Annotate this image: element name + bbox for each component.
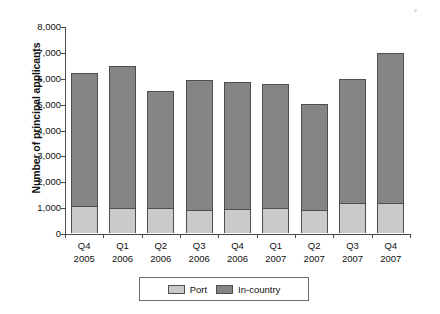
bar-segment-in-country bbox=[339, 79, 366, 203]
x-axis-label: Q22006 bbox=[142, 240, 180, 265]
bar-segment-port bbox=[71, 206, 98, 233]
x-axis-label: Q42007 bbox=[372, 240, 410, 265]
legend-swatch bbox=[216, 285, 233, 294]
y-axis-tick bbox=[61, 182, 65, 183]
x-axis-label-year: 2005 bbox=[65, 253, 103, 266]
x-axis-label-quarter: Q2 bbox=[295, 240, 333, 253]
x-axis-label-year: 2006 bbox=[218, 253, 256, 266]
y-axis-tick-label: 7,000 bbox=[1, 48, 61, 57]
stacked-bar bbox=[147, 91, 174, 233]
x-axis-label: Q42005 bbox=[65, 240, 103, 265]
x-axis-label-year: 2007 bbox=[295, 253, 333, 266]
stacked-bar bbox=[301, 104, 328, 233]
x-axis-label-quarter: Q3 bbox=[180, 240, 218, 253]
x-axis-label: Q32007 bbox=[333, 240, 371, 265]
bar-segment-in-country bbox=[147, 91, 174, 209]
scan-speckle bbox=[414, 9, 417, 12]
stacked-bar bbox=[377, 53, 404, 233]
bar-segment-port bbox=[339, 203, 366, 233]
x-axis-label-year: 2006 bbox=[142, 253, 180, 266]
y-axis-line bbox=[65, 27, 66, 235]
y-axis-tick bbox=[61, 131, 65, 132]
y-axis-tick-label: 8,000 bbox=[1, 22, 61, 31]
legend-label: Port bbox=[190, 284, 207, 295]
plot-area: 8,0007,0006,0005,0004,0003,0002,0001,000… bbox=[65, 27, 410, 234]
legend-item: Port bbox=[168, 284, 207, 295]
y-axis-tick-label: 5,000 bbox=[1, 100, 61, 109]
x-axis-label-year: 2007 bbox=[257, 253, 295, 266]
stacked-bar bbox=[71, 73, 98, 233]
y-axis-tick bbox=[61, 208, 65, 209]
x-axis-line bbox=[65, 234, 411, 235]
x-axis-label: Q12006 bbox=[103, 240, 141, 265]
x-axis-label-year: 2006 bbox=[103, 253, 141, 266]
x-axis-label: Q22007 bbox=[295, 240, 333, 265]
bar-segment-in-country bbox=[109, 66, 136, 208]
x-axis-label-quarter: Q4 bbox=[65, 240, 103, 253]
bar-segment-port bbox=[301, 210, 328, 233]
bar-segment-port bbox=[186, 210, 213, 233]
x-axis-tick bbox=[180, 234, 181, 238]
x-axis-tick bbox=[410, 234, 411, 238]
x-axis-tick bbox=[257, 234, 258, 238]
bar-segment-port bbox=[377, 203, 404, 233]
x-axis-tick bbox=[333, 234, 334, 238]
stacked-bar bbox=[109, 66, 136, 233]
y-axis-tick-label: 6,000 bbox=[1, 74, 61, 83]
x-axis-label-quarter: Q2 bbox=[142, 240, 180, 253]
y-axis-tick bbox=[61, 156, 65, 157]
x-axis-tick bbox=[372, 234, 373, 238]
x-axis-label-quarter: Q1 bbox=[257, 240, 295, 253]
bar-segment-in-country bbox=[301, 104, 328, 210]
y-axis-tick-label: 2,000 bbox=[1, 177, 61, 186]
y-axis-tick-label: 0 bbox=[1, 229, 61, 238]
x-axis-label-quarter: Q1 bbox=[103, 240, 141, 253]
chart-legend: PortIn-country bbox=[139, 277, 309, 301]
stacked-bar bbox=[186, 80, 213, 233]
x-axis-label-year: 2007 bbox=[372, 253, 410, 266]
y-axis-tick-label: 3,000 bbox=[1, 151, 61, 160]
bar-segment-port bbox=[224, 209, 251, 233]
x-axis-tick bbox=[103, 234, 104, 238]
x-axis-label-quarter: Q3 bbox=[333, 240, 371, 253]
y-axis-tick bbox=[61, 27, 65, 28]
y-axis-tick-label: 4,000 bbox=[1, 126, 61, 135]
y-axis-tick bbox=[61, 79, 65, 80]
bar-segment-port bbox=[109, 208, 136, 233]
bar-segment-in-country bbox=[262, 84, 289, 208]
x-axis-label-year: 2007 bbox=[333, 253, 371, 266]
x-axis-tick bbox=[142, 234, 143, 238]
x-axis-tick bbox=[295, 234, 296, 238]
x-axis-label-quarter: Q4 bbox=[218, 240, 256, 253]
stacked-bar bbox=[262, 84, 289, 233]
y-axis-tick bbox=[61, 105, 65, 106]
bar-segment-port bbox=[147, 208, 174, 233]
stacked-bar-chart: Number of principal applicants 8,0007,00… bbox=[0, 0, 440, 314]
bar-segment-in-country bbox=[71, 73, 98, 206]
legend-label: In-country bbox=[238, 284, 280, 295]
legend-item: In-country bbox=[216, 284, 280, 295]
y-axis-tick-label: 1,000 bbox=[1, 203, 61, 212]
stacked-bar bbox=[339, 79, 366, 233]
legend-swatch bbox=[168, 285, 185, 294]
y-axis-tick bbox=[61, 53, 65, 54]
bar-segment-in-country bbox=[186, 80, 213, 210]
x-axis-tick bbox=[218, 234, 219, 238]
x-axis-label: Q12007 bbox=[257, 240, 295, 265]
x-axis-label: Q32006 bbox=[180, 240, 218, 265]
x-axis-label-year: 2006 bbox=[180, 253, 218, 266]
x-axis-label: Q42006 bbox=[218, 240, 256, 265]
bar-segment-in-country bbox=[224, 82, 251, 209]
stacked-bar bbox=[224, 82, 251, 233]
x-axis-label-quarter: Q4 bbox=[372, 240, 410, 253]
bar-segment-in-country bbox=[377, 53, 404, 203]
bar-segment-port bbox=[262, 208, 289, 233]
x-axis-tick bbox=[65, 234, 66, 238]
